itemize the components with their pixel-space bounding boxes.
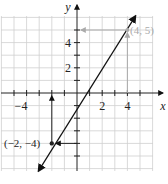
line-graph: −4 2 4 4 2 y x (4, 5) (−2, −4) <box>0 0 168 184</box>
y-tick-label-2: 2 <box>65 61 71 75</box>
point-b-marker <box>50 141 54 145</box>
x-tick-label-2: 2 <box>99 99 105 113</box>
x-tick-label-4: 4 <box>124 99 130 113</box>
point-a-label: (4, 5) <box>130 24 154 37</box>
x-tick-label-neg4: −4 <box>15 99 28 113</box>
x-axis-label: x <box>159 99 166 113</box>
point-b-label: (−2, −4) <box>4 137 41 150</box>
y-axis-label: y <box>64 0 71 14</box>
point-a-marker <box>125 28 129 32</box>
y-tick-label-4: 4 <box>65 36 71 50</box>
